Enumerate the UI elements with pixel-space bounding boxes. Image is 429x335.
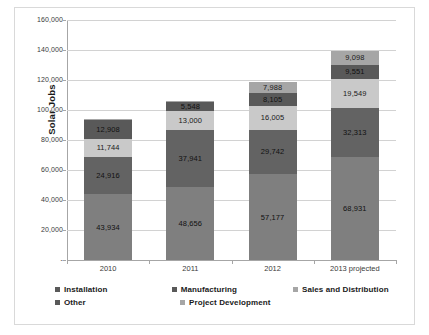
y-axis-tick-label: 60,000 (41, 166, 63, 173)
y-axis-tick-mark (63, 170, 66, 171)
bar-group[interactable]: 43,93424,91611,74412,908 (84, 119, 132, 260)
legend-swatch-icon (55, 300, 60, 305)
legend-swatch-icon (180, 300, 185, 305)
chart-container: -20,00040,00060,00080,000100,000120,0001… (14, 7, 415, 325)
bar-segment[interactable]: 9,098 (331, 51, 379, 65)
bar-value-label: 9,098 (345, 53, 364, 62)
bar-value-label: 19,549 (343, 89, 367, 98)
bar-segment[interactable]: 12,908 (84, 120, 132, 139)
bar-value-label: 43,934 (96, 223, 120, 232)
y-axis-tick-mark (63, 20, 66, 21)
bar-segment[interactable]: 29,742 (249, 130, 297, 175)
gridline (67, 20, 396, 21)
bar-segment[interactable]: 19,549 (331, 79, 379, 108)
legend-item-sales-and-distribution[interactable]: Sales and Distribution (293, 285, 405, 294)
bar-value-label: 48,656 (179, 219, 203, 228)
plot-area: 43,93424,91611,74412,908201048,65637,941… (67, 20, 396, 260)
y-axis-tick-mark (63, 50, 66, 51)
bar-value-label: 5,548 (181, 102, 200, 111)
bar-segment[interactable] (166, 101, 214, 102)
bar-value-label: 7,988 (263, 83, 282, 92)
bar-value-label: 13,000 (179, 116, 203, 125)
legend-swatch-icon (293, 287, 298, 292)
bar-group[interactable]: 48,65637,94113,0005,548 (166, 101, 214, 260)
y-axis-tick-mark (63, 80, 66, 81)
legend-item-installation[interactable]: Installation (55, 285, 172, 294)
y-axis-tick-label: 20,000 (41, 226, 63, 233)
y-axis-title: Solar Jobs (46, 70, 57, 150)
bar-segment[interactable]: 37,941 (166, 130, 214, 187)
bar-value-label: 9,551 (345, 67, 364, 76)
y-axis-tick-mark (63, 200, 66, 201)
y-axis-tick-mark (63, 110, 66, 111)
bar-stack: 48,65637,94113,0005,548 (166, 101, 214, 260)
y-axis-tick-mark (63, 230, 66, 231)
bar-segment[interactable]: 57,177 (249, 174, 297, 260)
y-axis-tick-label: 40,000 (41, 196, 63, 203)
bar-segment[interactable]: 8,105 (249, 93, 297, 105)
legend-label: Sales and Distribution (302, 285, 389, 294)
legend-label: Other (64, 298, 86, 307)
legend-label: Project Development (189, 298, 270, 307)
legend-row-2: Other Project Development (55, 298, 405, 307)
bar-value-label: 8,105 (263, 95, 282, 104)
bar-segment[interactable]: 5,548 (166, 102, 214, 110)
y-axis-tick-mark (63, 260, 66, 261)
y-axis-tick-mark (63, 140, 66, 141)
y-axis-tick-label: 140,000 (37, 46, 63, 53)
legend-row-1: Installation Manufacturing Sales and Dis… (55, 285, 405, 294)
chart-legend: Installation Manufacturing Sales and Dis… (55, 285, 405, 311)
bar-segment[interactable]: 43,934 (84, 194, 132, 260)
bar-value-label: 12,908 (96, 125, 120, 134)
bar-segment[interactable]: 32,313 (331, 108, 379, 156)
bar-stack: 68,93132,31319,5499,5519,098 (331, 51, 379, 260)
legend-swatch-icon (55, 287, 60, 292)
bar-value-label: 32,313 (343, 128, 367, 137)
bar-value-label: 29,742 (261, 147, 285, 156)
bar-segment[interactable]: 48,656 (166, 187, 214, 260)
bar-value-label: 68,931 (343, 204, 367, 213)
bar-group[interactable]: 68,93132,31319,5499,5519,098 (331, 51, 379, 260)
bar-segment[interactable]: 7,988 (249, 82, 297, 94)
y-axis-tick-label: 160,000 (37, 16, 63, 23)
x-axis-tick-label: 2013 projected (300, 264, 410, 273)
bar-stack: 43,93424,91611,74412,908 (84, 119, 132, 260)
bar-segment[interactable]: 16,005 (249, 106, 297, 130)
bar-segment[interactable] (84, 119, 132, 120)
legend-item-project-development[interactable]: Project Development (180, 298, 310, 307)
bar-value-label: 11,744 (97, 143, 120, 152)
legend-item-manufacturing[interactable]: Manufacturing (172, 285, 293, 294)
bar-group[interactable]: 57,17729,74216,0058,1057,988 (249, 82, 297, 260)
bar-segment[interactable]: 68,931 (331, 157, 379, 260)
bar-segment[interactable]: 13,000 (166, 111, 214, 131)
bar-stack: 57,17729,74216,0058,1057,988 (249, 82, 297, 260)
bar-segment[interactable]: 9,551 (331, 65, 379, 79)
legend-label: Installation (64, 285, 107, 294)
legend-label: Manufacturing (181, 285, 237, 294)
bar-value-label: 24,916 (96, 171, 120, 180)
legend-item-other[interactable]: Other (55, 298, 180, 307)
bar-segment[interactable]: 11,744 (84, 139, 132, 157)
legend-swatch-icon (172, 287, 177, 292)
bar-value-label: 57,177 (261, 213, 285, 222)
bar-value-label: 16,005 (261, 113, 285, 122)
bar-segment[interactable]: 24,916 (84, 157, 132, 194)
bar-value-label: 37,941 (179, 154, 203, 163)
